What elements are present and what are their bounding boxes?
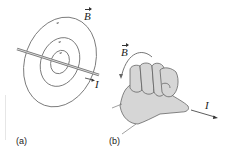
current-arrow-icon <box>191 110 218 119</box>
field-label-b: B <box>84 10 91 22</box>
panel-b: B I (b) <box>100 0 234 159</box>
field-curl-arrowhead-icon <box>119 74 123 79</box>
field-label-b: B <box>121 46 128 58</box>
current-label-i: I <box>95 78 99 90</box>
field-arrow-outer-icon <box>56 22 59 24</box>
caption-a: (a) <box>16 136 27 146</box>
field-arrow-middle-icon <box>58 41 61 43</box>
right-hand-diagram <box>100 0 234 159</box>
wire <box>17 49 99 75</box>
current-label-i: I <box>205 99 209 111</box>
caption-b: (b) <box>109 136 120 146</box>
finger-4 <box>160 68 178 97</box>
wrist-line-bottom <box>122 124 136 134</box>
hand <box>120 63 189 124</box>
panel-a: B I (a) <box>0 0 112 159</box>
right-hand-rule-figure: B I (a) <box>0 0 234 159</box>
field-arrow-inner-icon <box>59 52 62 54</box>
